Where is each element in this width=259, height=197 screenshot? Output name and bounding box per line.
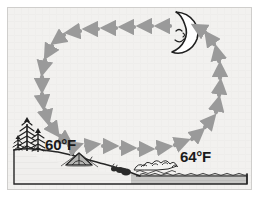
land-breeze-diagram xyxy=(0,0,259,197)
diagram-canvas xyxy=(0,0,259,197)
land-temperature-label: 60°F xyxy=(45,136,76,153)
water-temperature-label: 64°F xyxy=(180,148,211,165)
